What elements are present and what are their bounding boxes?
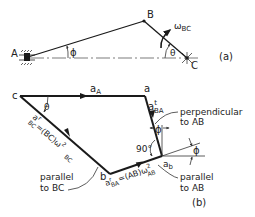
angle-arc-phi: [67, 46, 68, 58]
angle-label-phi: ϕ: [70, 47, 77, 58]
angle-label-theta-c: θ: [44, 102, 50, 112]
omega-label: ωBC: [174, 21, 191, 33]
label-a-r-ba: ar BA =(AB)ω2 AB: [103, 161, 156, 191]
joint-b: [142, 19, 145, 22]
perpendicular-to-ab-label-line2: to AB: [180, 117, 204, 127]
vector-a-r-bc: [20, 96, 110, 174]
point-label-c: C: [191, 60, 198, 71]
label-a-a: aA: [90, 83, 101, 96]
perpendicular-to-ab-label: perpendicular: [180, 107, 243, 117]
point-label-b: B: [147, 9, 154, 20]
figure-a-tag: (a): [219, 51, 233, 62]
figure-a-linkage: A B C ϕ θ ωBC (a): [11, 9, 233, 71]
parallel-to-ab-label: parallel: [180, 172, 213, 182]
link-ab: [28, 21, 144, 57]
angle-label-theta: θ: [170, 48, 176, 58]
parallel-to-ab-label-line2: to AB: [180, 183, 204, 193]
parallel-to-bc-label-line2: to BC: [40, 183, 64, 193]
point-label-c-lower: c: [12, 90, 18, 101]
point-label-a: A: [11, 48, 18, 59]
svg-text:AB: AB: [146, 168, 156, 177]
label-a-r-bc: ar BC =(BC)ω2 BC: [25, 111, 81, 164]
angle-label-phi-right: ϕ: [193, 145, 200, 156]
mechanism-diagram: A B C ϕ θ ωBC (a): [0, 0, 255, 217]
angle-label-phi-top: ϕ: [155, 124, 162, 135]
figure-b-tag: (b): [192, 197, 206, 208]
svg-text:BC: BC: [63, 153, 74, 164]
parallel-to-bc-label: parallel: [40, 172, 73, 182]
label-a-t-ba-sub: BA: [154, 107, 164, 115]
figure-b-acceleration-polygon: c a b aA at BA ar BC =(BC)ω2 BC ar BA =: [12, 83, 243, 208]
point-label-a-lower: a: [144, 83, 150, 94]
angle-arc-phi-right: [189, 138, 192, 146]
ground-support-icon: [19, 50, 35, 65]
svg-text:=(BC)ω2: =(BC)ω2: [34, 120, 68, 152]
right-angle-label: 90°: [136, 144, 152, 154]
label-a-b: ab: [163, 159, 174, 171]
